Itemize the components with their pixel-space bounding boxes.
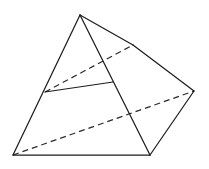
geometry-canvas — [0, 0, 209, 169]
geometry-figure — [0, 0, 209, 169]
figure-background — [0, 0, 209, 169]
